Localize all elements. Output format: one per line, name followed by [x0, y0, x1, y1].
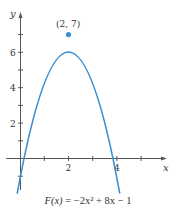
- caption-function-name: F(x): [45, 195, 63, 206]
- y-tick-label-4: 4: [10, 83, 16, 93]
- vertex-label: (2, 7): [56, 19, 80, 29]
- x-axis-arrow-icon: [161, 157, 167, 161]
- y-axis-label: y: [9, 8, 16, 19]
- caption-expression: = −2x² + 8x − 1: [63, 195, 132, 206]
- parabola-chart: 6 4 2 2 4 y x (2, 7) F(x) = −2x² + 8x − …: [0, 0, 176, 213]
- vertex-point: [66, 32, 71, 37]
- function-caption: F(x) = −2x² + 8x − 1: [0, 195, 176, 206]
- x-axis-label: x: [163, 162, 169, 173]
- y-axis-arrow-icon: [19, 12, 23, 18]
- axes: [6, 12, 167, 190]
- x-tick-label-2: 2: [66, 163, 72, 173]
- y-tick-label-6: 6: [10, 48, 16, 58]
- y-tick-label-2: 2: [10, 119, 16, 129]
